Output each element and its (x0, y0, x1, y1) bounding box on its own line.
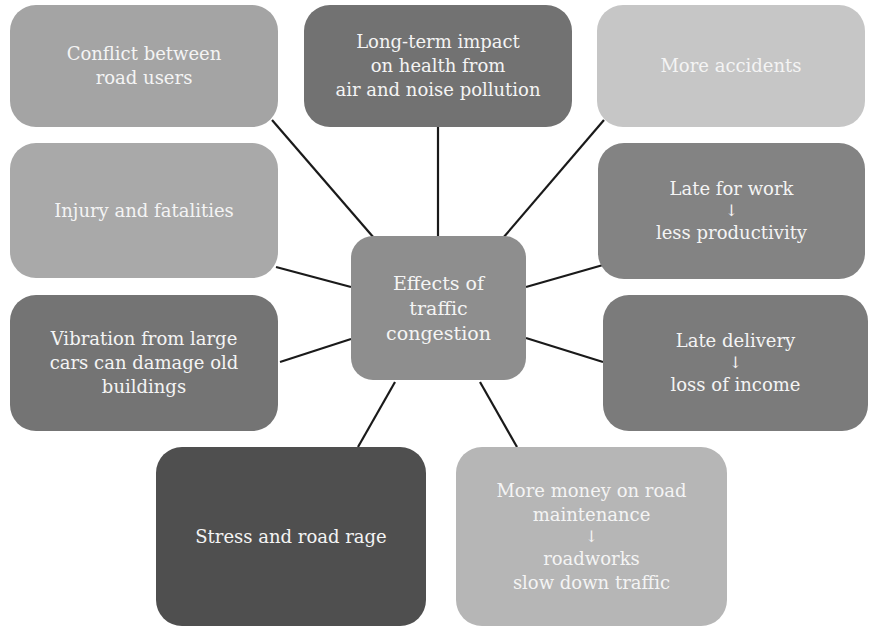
node-consequence-line: less productivity (656, 221, 807, 245)
node-consequence-line: roadworks (543, 547, 640, 571)
node-text-line: More accidents (660, 54, 801, 78)
node-text-line: Injury and fatalities (54, 199, 234, 223)
node-text-line: Late for work (670, 177, 794, 201)
node-text-line: maintenance (533, 503, 651, 527)
node-text-line: Late delivery (676, 329, 796, 353)
node-text-line: congestion (386, 321, 491, 346)
node-text-line: Vibration from large (51, 327, 238, 351)
effect-late-delivery: Late delivery↓loss of income (603, 295, 868, 431)
connector-late-delivery (526, 338, 603, 362)
node-text-line: road users (96, 66, 193, 90)
effect-late-for-work: Late for work↓less productivity (598, 143, 865, 279)
node-text-line: Conflict between (67, 42, 222, 66)
effect-injury-and-fatalities: Injury and fatalities (10, 143, 278, 278)
down-arrow-icon: ↓ (729, 355, 742, 371)
effect-more-accidents: More accidents (597, 5, 865, 127)
connector-late-work (526, 265, 603, 287)
node-text-line: air and noise pollution (335, 78, 540, 102)
node-text-line: Long-term impact (356, 30, 520, 54)
node-text-line: Stress and road rage (195, 525, 387, 549)
effect-stress-and-road-rage: Stress and road rage (156, 447, 426, 626)
connector-injury (276, 267, 351, 287)
central-topic: Effects oftrafficcongestion (351, 236, 526, 380)
node-text-line: on health from (371, 54, 506, 78)
connector-conflict (272, 120, 374, 238)
node-text-line: cars can damage old (50, 351, 239, 375)
effect-vibration-damage: Vibration from largecars can damage oldb… (10, 295, 278, 431)
node-text-line: Effects of (393, 271, 484, 296)
node-consequence-line: slow down traffic (513, 571, 670, 595)
node-text-line: buildings (102, 375, 186, 399)
down-arrow-icon: ↓ (725, 203, 738, 219)
connector-stress (358, 382, 395, 447)
connector-vibration (280, 339, 351, 362)
node-consequence-line: loss of income (671, 373, 801, 397)
connector-road-money (480, 382, 517, 447)
connector-accidents (503, 120, 604, 238)
effect-long-term-health-impact: Long-term impacton health fromair and no… (304, 5, 572, 127)
effect-road-maintenance-cost: More money on roadmaintenance↓roadworkss… (456, 447, 727, 626)
node-text-line: More money on road (496, 479, 686, 503)
down-arrow-icon: ↓ (585, 529, 598, 545)
effect-conflict-between-road-users: Conflict betweenroad users (10, 5, 278, 127)
node-text-line: traffic (409, 296, 467, 321)
